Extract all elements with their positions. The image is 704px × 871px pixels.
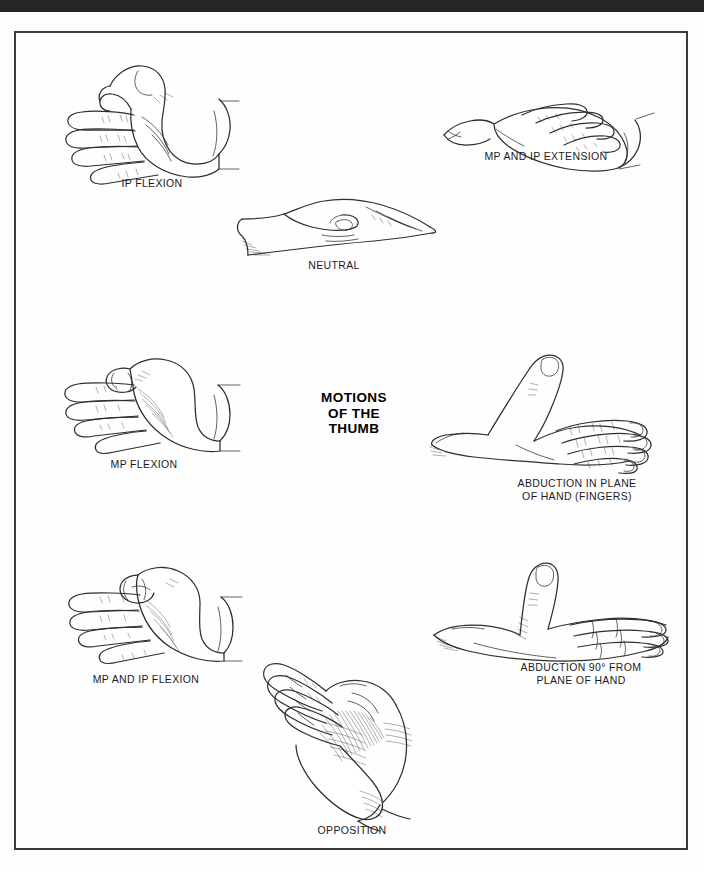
page-title: MOTIONS OF THE THUMB (274, 390, 434, 437)
ip-flexion-drawing (34, 51, 244, 181)
abduction-90-drawing (424, 531, 674, 661)
abduction-in-plane-drawing (416, 323, 666, 473)
mp-and-ip-flexion-drawing (34, 543, 244, 663)
figure-abduction-in-plane-of-hand (416, 323, 666, 473)
page-title-line-3: THUMB (274, 421, 434, 437)
caption-ip-flexion: IP FLEXION (62, 177, 242, 190)
figure-ip-flexion (34, 51, 244, 181)
figure-neutral (226, 179, 446, 265)
opposition-drawing (252, 653, 442, 833)
mp-and-ip-extension-drawing (426, 73, 656, 183)
caption-opposition: OPPOSITION (282, 824, 422, 837)
caption-neutral: NEUTRAL (274, 259, 394, 272)
page-title-line-1: MOTIONS (274, 390, 434, 406)
illustration-plate-border: MOTIONS OF THE THUMB (14, 31, 688, 850)
figure-mp-and-ip-flexion (34, 543, 244, 663)
figure-mp-and-ip-extension (426, 73, 656, 183)
top-black-bar (0, 0, 704, 12)
mp-flexion-drawing (34, 333, 244, 453)
illustration-page: MOTIONS OF THE THUMB (0, 0, 704, 871)
caption-abduction-90-from-plane-of-hand: ABDUCTION 90° FROM PLANE OF HAND (486, 661, 676, 687)
caption-mp-and-ip-extension: MP AND IP EXTENSION (446, 150, 646, 163)
page-title-line-2: OF THE (274, 406, 434, 422)
neutral-drawing (226, 179, 446, 265)
caption-abduction-in-plane-of-hand: ABDUCTION IN PLANE OF HAND (FINGERS) (482, 477, 672, 503)
figure-mp-flexion (34, 333, 244, 453)
caption-mp-flexion: MP FLEXION (54, 458, 234, 471)
caption-mp-and-ip-flexion: MP AND IP FLEXION (46, 673, 246, 686)
figure-abduction-90-from-plane-of-hand (424, 531, 674, 661)
figure-opposition (252, 653, 442, 833)
